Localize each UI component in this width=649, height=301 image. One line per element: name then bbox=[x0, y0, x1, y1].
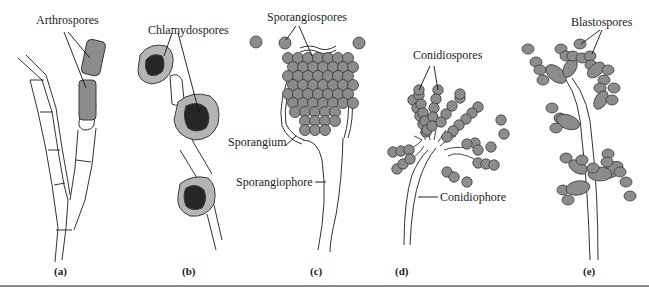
blastospore-leaders bbox=[581, 30, 602, 54]
blastospore bbox=[546, 103, 558, 113]
label-arthrospores: Arthrospores bbox=[36, 14, 99, 26]
spore-dot bbox=[300, 125, 311, 136]
spore-dot bbox=[330, 116, 341, 127]
blastospores bbox=[522, 39, 636, 205]
label-chlamydospores: Chlamydospores bbox=[148, 24, 229, 36]
blastospore bbox=[624, 191, 636, 201]
blastospore bbox=[602, 65, 614, 75]
spore-dot bbox=[455, 89, 465, 99]
blastospore bbox=[550, 123, 562, 133]
blastospore bbox=[576, 155, 588, 165]
chlamydospores bbox=[138, 45, 219, 216]
panel-label-b: (b) bbox=[182, 266, 195, 277]
blastospore bbox=[608, 83, 620, 93]
spore-dot bbox=[338, 98, 349, 109]
spore-dot bbox=[431, 94, 441, 104]
panel-label-c: (c) bbox=[310, 266, 322, 277]
blastospore bbox=[534, 65, 546, 75]
blastospore bbox=[614, 167, 626, 177]
spore-dot bbox=[416, 99, 426, 109]
spore-dot bbox=[279, 37, 291, 49]
spore-dot bbox=[250, 36, 262, 48]
arthrospore-cells bbox=[79, 39, 106, 120]
spore-dot bbox=[473, 145, 483, 155]
panel-label-e: (e) bbox=[583, 266, 595, 277]
spore-dot bbox=[499, 129, 509, 139]
spore-dot bbox=[449, 172, 459, 182]
blastospore bbox=[620, 177, 632, 187]
blastospore bbox=[606, 95, 618, 105]
blastospore bbox=[537, 75, 549, 85]
spore-dot bbox=[405, 154, 415, 164]
spore-dot bbox=[486, 142, 496, 152]
blastospore bbox=[587, 163, 599, 173]
spore-dot bbox=[353, 37, 365, 49]
spore-dot bbox=[320, 125, 331, 136]
panel-label-d: (d) bbox=[395, 266, 408, 277]
label-sporangiophore: Sporangiophore bbox=[236, 176, 313, 188]
spore-dot bbox=[310, 125, 321, 136]
sporangiophore bbox=[303, 138, 343, 252]
label-blastospores: Blastospores bbox=[571, 16, 632, 28]
label-sporangiospores: Sporangiospores bbox=[267, 11, 347, 23]
blastospore bbox=[574, 39, 586, 49]
label-sporangium: Sporangium bbox=[228, 136, 287, 148]
spore-dot bbox=[496, 115, 506, 125]
panel-label-a: (a) bbox=[54, 266, 67, 277]
bottom-divider bbox=[0, 285, 649, 287]
blastospore bbox=[584, 51, 596, 61]
spore-dot bbox=[462, 139, 472, 149]
conidiospores bbox=[388, 85, 509, 187]
blastospore bbox=[522, 44, 534, 54]
blastospore bbox=[562, 195, 574, 205]
label-conidiospores: Conidiospores bbox=[413, 49, 482, 61]
spore-dot bbox=[462, 177, 472, 187]
spore-dot bbox=[436, 117, 446, 127]
label-conidiophore: Conidiophore bbox=[440, 191, 506, 203]
spore-types-illustration bbox=[0, 0, 649, 301]
spore-dot bbox=[489, 160, 499, 170]
spore-dot bbox=[290, 107, 301, 118]
blastospore bbox=[601, 157, 613, 167]
spore-dot bbox=[442, 132, 452, 142]
spore-dot bbox=[348, 98, 359, 109]
